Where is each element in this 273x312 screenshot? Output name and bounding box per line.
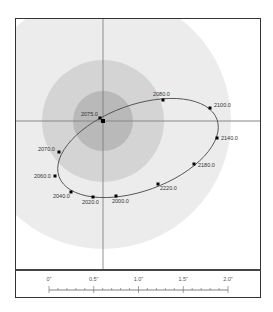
orbit-point-label: 2140.0 — [221, 135, 238, 141]
orbit-point — [193, 163, 196, 166]
orbit-point-label: 2220.0 — [160, 185, 177, 191]
scale-tick-label: 0.5" — [89, 276, 99, 282]
orbit-point — [58, 151, 61, 154]
center-star-marker — [101, 119, 105, 123]
scale-tick-label: 2.0" — [223, 276, 233, 282]
orbit-point-label: 2100.0 — [214, 102, 231, 108]
scale-tick-label: 1.5" — [178, 276, 188, 282]
scale-tick-label: 0" — [46, 276, 51, 282]
orbit-point — [209, 107, 212, 110]
orbit-point-label: 2020.0 — [82, 199, 99, 205]
orbit-plot: 2075.02080.02100.02140.02180.02220.02000… — [0, 0, 273, 312]
orbit-point — [216, 137, 219, 140]
orbit-point-label: 2075.0 — [81, 111, 98, 117]
orbit-point-label: 2180.0 — [198, 162, 215, 168]
orbit-point-label: 2060.0 — [34, 173, 51, 179]
orbit-point — [54, 175, 57, 178]
orbit-point-label: 2000.0 — [112, 198, 129, 204]
scale-bar-panel: 0"0.5"1.0"1.5"2.0" — [15, 269, 261, 298]
orbit-point-label: 2070.0 — [38, 146, 55, 152]
scale-bar: 0"0.5"1.0"1.5"2.0" — [16, 271, 260, 297]
orbit-point — [162, 99, 165, 102]
orbit-point-label: 2080.0 — [153, 91, 170, 97]
orbit-point — [70, 191, 73, 194]
orbit-point-label: 2040.0 — [53, 193, 70, 199]
scale-tick-label: 1.0" — [134, 276, 144, 282]
